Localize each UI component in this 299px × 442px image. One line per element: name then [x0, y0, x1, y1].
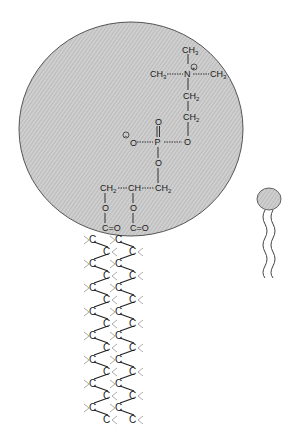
hydrogen-stub	[112, 272, 117, 276]
hydrogen-stub	[138, 296, 143, 300]
schematic-head-icon	[257, 188, 281, 210]
hydrogen-stub	[138, 420, 143, 424]
carbon-atom: C	[129, 270, 136, 281]
hydrogen-stub	[138, 252, 143, 256]
hydrogen-stub	[112, 296, 117, 300]
carbon-atom: C	[103, 366, 110, 377]
carbon-atom: C	[129, 390, 136, 401]
hydrogen-stub	[138, 372, 143, 376]
carbon-atom: C	[129, 366, 136, 377]
carbon-atom: C	[89, 258, 96, 269]
hydrogen-stub	[138, 344, 143, 348]
schematic-tail-icon	[263, 210, 267, 278]
hydrogen-stub	[112, 396, 117, 400]
carbon-atom: C	[115, 354, 122, 365]
carbon-atom: C	[103, 270, 110, 281]
hydrogen-stub	[138, 276, 143, 280]
carbon-atom: C	[103, 246, 110, 257]
hydrogen-stub	[112, 420, 117, 424]
carbon-atom: C	[129, 246, 136, 257]
hydrocarbon-tails: CCCCCCCCCCCCCCCCCCCCCCCCCCCCCCCC	[84, 234, 143, 425]
ester-oxygen-below: O	[155, 158, 162, 168]
carbon-atom: C	[89, 306, 96, 317]
schematic-lipid-symbol	[257, 188, 281, 278]
hydrogen-stub	[138, 396, 143, 400]
hydrogen-stub	[112, 248, 117, 252]
hydrogen-stub	[112, 392, 117, 396]
hydrogen-stub	[138, 324, 143, 328]
carbon-atom: C	[89, 378, 96, 389]
hydrogen-stub	[112, 344, 117, 348]
phosphorus-label: P	[155, 137, 161, 147]
hydrogen-stub	[112, 276, 117, 280]
carbon-atom: C	[89, 354, 96, 365]
carbon-atom: C	[89, 234, 96, 245]
carbon-atom: C	[129, 414, 136, 425]
negative-charge-sign: −	[124, 133, 128, 139]
hydrogen-stub	[112, 320, 117, 324]
carbon-atom: C	[89, 282, 96, 293]
carbon-atom: C	[129, 318, 136, 329]
carbon-atom: C	[115, 282, 122, 293]
nitrogen-label: N	[184, 69, 191, 79]
carbon-atom: C	[89, 330, 96, 341]
hydrogen-stub	[112, 324, 117, 328]
carbon-atom: C	[103, 390, 110, 401]
ester-oxygen-right: O	[184, 137, 191, 147]
carbon-atom: C	[129, 342, 136, 353]
hydrogen-stub	[112, 252, 117, 256]
positive-charge-sign: +	[192, 65, 196, 71]
hydrogen-stub	[138, 300, 143, 304]
hydrogen-stub	[138, 272, 143, 276]
carbon-atom: C	[103, 294, 110, 305]
hydrogen-stub	[112, 300, 117, 304]
carbon-atom: C	[115, 330, 122, 341]
hydrogen-stub	[138, 248, 143, 252]
hydrogen-stub	[138, 392, 143, 396]
lecithin-diagram: CH3 N + CH3 CH3 CH2 CH2 O P O O − O CH2 …	[0, 0, 299, 442]
ester-oxygen-chain-right: O	[130, 203, 137, 213]
carbon-atom: C	[115, 258, 122, 269]
carbon-atom: C	[89, 402, 96, 413]
phosphoryl-oxygen: O	[155, 117, 162, 127]
hydrogen-stub	[138, 320, 143, 324]
anionic-oxygen: O	[130, 138, 137, 148]
carbon-atom: C	[115, 306, 122, 317]
schematic-tail-icon	[271, 210, 275, 278]
hydrogen-stub	[138, 368, 143, 372]
hydrogen-stub	[112, 348, 117, 352]
carbon-atom: C	[103, 414, 110, 425]
hydrogen-stub	[112, 368, 117, 372]
carbon-atom: C	[115, 234, 122, 245]
carbon-atom: C	[115, 378, 122, 389]
hydrogen-stub	[112, 372, 117, 376]
carbon-atom: C	[103, 342, 110, 353]
carbonyl-right: C=O	[130, 223, 149, 233]
carbonyl-left: C=O	[102, 223, 121, 233]
carbon-atom: C	[129, 294, 136, 305]
carbon-atom: C	[103, 318, 110, 329]
glycerol-ch: CH	[128, 183, 141, 193]
hydrogen-stub	[112, 416, 117, 420]
carbon-atom: C	[115, 402, 122, 413]
hydrogen-stub	[138, 416, 143, 420]
ester-oxygen-chain-left: O	[102, 203, 109, 213]
hydrogen-stub	[138, 348, 143, 352]
